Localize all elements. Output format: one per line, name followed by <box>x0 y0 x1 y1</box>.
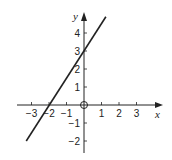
series-line <box>26 17 106 141</box>
x-tick-label: 1 <box>99 108 105 119</box>
y-tick-label: 3 <box>74 46 80 57</box>
line-graph: −3−2−1123−2−11234 x y <box>0 0 172 160</box>
x-tick-label: 3 <box>134 108 140 119</box>
data-series <box>26 17 106 141</box>
y-tick-label: −1 <box>69 118 81 129</box>
x-tick-label: −2 <box>43 108 55 119</box>
x-tick-label: −3 <box>26 108 38 119</box>
axes <box>17 12 163 153</box>
y-tick-label: 1 <box>74 82 80 93</box>
y-tick-label: −2 <box>69 136 81 147</box>
y-axis-label: y <box>72 10 78 22</box>
y-axis-arrow-icon <box>81 12 87 21</box>
x-tick-label: 2 <box>116 108 122 119</box>
x-axis-label: x <box>154 108 160 120</box>
y-tick-label: 4 <box>74 28 80 39</box>
tick-labels: −3−2−1123−2−11234 <box>26 28 140 147</box>
